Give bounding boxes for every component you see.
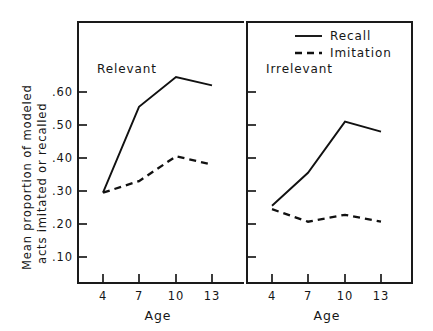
y-tick-label: .30 [52, 184, 73, 198]
x-tick-label: 13 [373, 289, 389, 303]
x-tick-label: 7 [304, 289, 312, 303]
y-tick-label: .50 [52, 118, 73, 132]
y-tick-label: .20 [52, 217, 73, 231]
y-tick-label: .40 [52, 151, 73, 165]
x-axis-title-left: Age [145, 308, 172, 323]
x-tick-label: 13 [204, 289, 220, 303]
figure-container: Mean proportion of modeled acts imitated… [0, 0, 433, 331]
y-axis-title: Mean proportion of modeled acts imitated… [20, 84, 49, 270]
x-tick-label: 7 [135, 289, 143, 303]
x-tick-label: 4 [268, 289, 276, 303]
x-axis-title-right: Age [314, 308, 341, 323]
legend-label-imitation: Imitation [330, 46, 392, 60]
legend-label-recall: Recall [330, 29, 371, 43]
y-tick-label: .10 [52, 250, 73, 264]
x-tick-label: 10 [168, 289, 184, 303]
y-axis-title-line2: acts imitated or recalled [35, 103, 49, 264]
panel-label-irrelevant: Irrelevant [266, 62, 333, 76]
x-tick-label: 10 [337, 289, 353, 303]
panel-label-relevant: Relevant [97, 62, 157, 76]
line-chart: Mean proportion of modeled acts imitated… [0, 0, 433, 331]
y-axis-title-line1: Mean proportion of modeled [20, 84, 34, 270]
x-tick-label: 4 [99, 289, 107, 303]
y-tick-label: .60 [52, 85, 73, 99]
